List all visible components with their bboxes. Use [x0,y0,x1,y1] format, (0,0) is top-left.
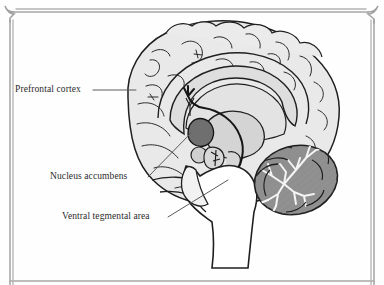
nucleus-accumbens [188,119,214,147]
brain-artwork [0,0,384,285]
brain-diagram-figure: Prefrontal cortex Nucleus accumbens Vent… [0,0,384,285]
label-ventral-tegmental-area: Ventral tegmental area [62,211,150,221]
label-nucleus-accumbens: Nucleus accumbens [50,171,127,181]
label-prefrontal-cortex: Prefrontal cortex [15,84,81,94]
brainstem [182,166,257,269]
